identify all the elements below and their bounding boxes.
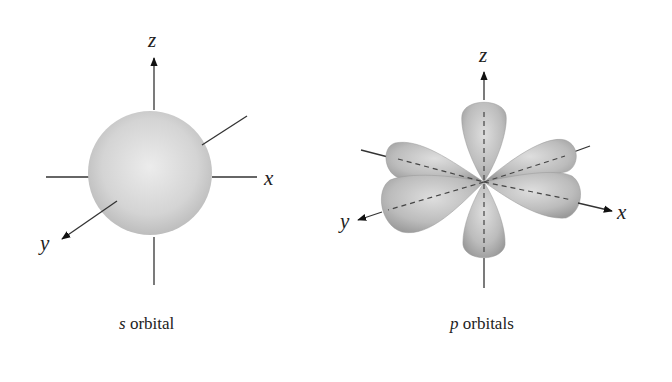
- p-y-axis-front: [358, 212, 382, 220]
- s-y-label: y: [38, 231, 50, 255]
- p-x-axis-front: [578, 203, 612, 211]
- s-orbital-figure: z x y: [38, 28, 274, 285]
- s-x-label: x: [263, 166, 274, 190]
- p-orbitals-caption-letter: p: [450, 314, 459, 333]
- p-orbitals-figure: z x y: [338, 43, 627, 288]
- s-z-label: z: [147, 28, 156, 52]
- s-y-axis-front: [62, 201, 117, 239]
- s-orbital-caption-letter: s: [119, 314, 126, 333]
- diagram-canvas: z x y z x y: [0, 0, 672, 382]
- p-orbitals-caption: p orbitals: [450, 314, 514, 334]
- p-orbitals-caption-text: orbitals: [459, 314, 514, 333]
- s-y-axis-back: [202, 116, 247, 145]
- p-x-label: x: [616, 200, 627, 224]
- s-orbital-caption-text: orbital: [126, 314, 175, 333]
- p-z-label: z: [478, 43, 487, 67]
- p-y-label: y: [338, 209, 350, 233]
- s-orbital-sphere: [88, 111, 212, 235]
- orbital-diagram: z x y z x y s orbital p orbitals: [0, 0, 672, 382]
- s-orbital-caption: s orbital: [119, 314, 174, 334]
